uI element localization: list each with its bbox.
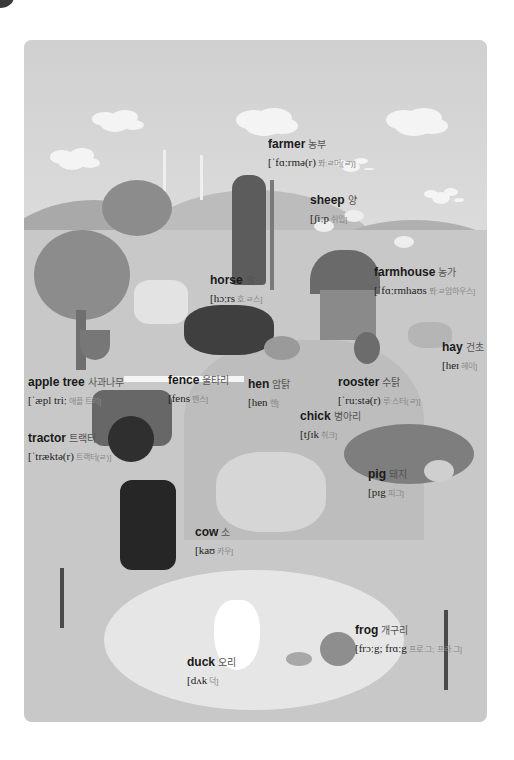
label-ipa-korean: 프로ː그; 프라ː그] — [409, 645, 462, 654]
cloud — [244, 112, 284, 136]
label-word: pig — [368, 467, 386, 481]
label-korean: 울타리 — [202, 375, 229, 386]
cloud — [100, 114, 130, 132]
label-ipa: [hɔːrs — [210, 292, 235, 304]
cow-icon — [216, 452, 326, 532]
label-ipa: [hen — [248, 396, 268, 408]
label-ipa: [ˈfɑːrmhaʊs — [374, 284, 427, 296]
label-farmer: farmer농부 [ˈfɑːrmə(r)퐈ːㄹ머(ㄹ)] — [268, 134, 356, 171]
farmer-figure — [232, 175, 266, 285]
label-word: tractor — [28, 431, 66, 445]
label-word: fence — [168, 373, 199, 387]
label-chick: chick병아리 [tʃɪk취크] — [300, 406, 361, 443]
label-ipa-korean: 퐈ːㄹ머(ㄹ)] — [318, 159, 356, 168]
label-word: apple tree — [28, 375, 85, 389]
label-ipa-korean: 덕] — [209, 677, 218, 686]
label-korean: 건초 — [466, 342, 484, 353]
pig-pen-mud — [344, 424, 474, 484]
label-korean: 트랙터 — [69, 433, 96, 444]
label-ipa: [kaʊ — [195, 544, 215, 556]
label-duck: duck오리 [dʌk덕] — [187, 652, 236, 689]
label-ipa-korean: 쉬입] — [331, 215, 347, 224]
label-korean: 개구리 — [381, 625, 408, 636]
label-korean: 수탉 — [382, 377, 400, 388]
label-apple-tree: apple tree사과나무 [ˈæpl triː애플 트리] — [28, 372, 124, 409]
cattail-reed — [60, 568, 64, 628]
label-ipa-korean: 트랙터(ㄹ)] — [76, 453, 112, 462]
label-korean: 말 — [246, 275, 255, 286]
label-ipa: [ˈruːstə(r) — [338, 394, 381, 406]
label-word: cow — [195, 525, 218, 539]
shovel-icon — [270, 180, 274, 290]
corner-decoration — [0, 0, 14, 8]
label-word: hen — [248, 377, 269, 391]
label-ipa: [pɪg — [368, 486, 386, 498]
label-word: hay — [442, 340, 463, 354]
label-ipa-korean: 헨] — [270, 399, 279, 408]
label-korean: 병아리 — [334, 411, 361, 422]
label-word: duck — [187, 655, 215, 669]
label-korean: 암탉 — [272, 379, 290, 390]
cloud — [58, 152, 86, 170]
label-ipa-korean: 취크] — [321, 431, 337, 440]
label-korean: 돼지 — [389, 469, 407, 480]
label-word: rooster — [338, 375, 379, 389]
label-farmhouse: farmhouse농가 [ˈfɑːrmhaʊs퐈ːㄹ암하우스] — [374, 262, 475, 299]
frog-icon — [320, 632, 356, 666]
label-word: frog — [355, 623, 378, 637]
label-ipa-korean: 카우] — [217, 547, 233, 556]
label-ipa-korean: 애플 트리] — [69, 397, 101, 406]
label-fence: fence울타리 [fens펜스] — [168, 370, 229, 407]
label-ipa-korean: 헤이] — [461, 362, 477, 371]
label-ipa: [dʌk — [187, 674, 207, 686]
wind-turbine — [200, 155, 203, 200]
cow-icon — [120, 480, 176, 570]
label-ipa-korean: 호ːㄹ스] — [237, 295, 262, 304]
label-word: chick — [300, 409, 331, 423]
pig-icon — [424, 460, 454, 482]
label-ipa: [ˈtræktə(r) — [28, 450, 74, 462]
label-ipa: [ʃiːp — [310, 212, 329, 224]
label-word: sheep — [310, 193, 345, 207]
label-sheep: sheep양 [ʃiːp쉬입] — [310, 190, 357, 227]
label-hay: hay건초 [heɪ헤이] — [442, 337, 484, 374]
hen-icon — [264, 336, 300, 360]
label-pig: pig돼지 [pɪg피그] — [368, 464, 407, 501]
label-ipa-korean: 루ː스터(ㄹ)] — [383, 397, 421, 406]
label-hen: hen암탉 [hen헨] — [248, 374, 290, 411]
rooster-icon — [354, 332, 380, 364]
apple-tree-icon — [34, 230, 130, 320]
label-word: farmer — [268, 137, 305, 151]
tractor-wheel — [108, 416, 154, 462]
label-korean: 농가 — [438, 267, 456, 278]
label-ipa: [ˈfɑːrmə(r) — [268, 156, 316, 168]
label-korean: 오리 — [218, 657, 236, 668]
label-ipa-korean: 펜스] — [192, 395, 208, 404]
label-rooster: rooster수탉 [ˈruːstə(r)루ː스터(ㄹ)] — [338, 372, 421, 409]
basket-icon — [80, 330, 110, 360]
cloud — [432, 192, 450, 204]
cloud — [394, 112, 434, 136]
label-ipa: [fens — [168, 392, 190, 404]
label-tractor: tractor트랙터 [ˈtræktə(r)트랙터(ㄹ)] — [28, 428, 111, 465]
label-korean: 소 — [221, 527, 230, 538]
label-word: farmhouse — [374, 265, 435, 279]
label-ipa: [frɔːg; frɑːg — [355, 642, 407, 654]
label-ipa-korean: 퐈ːㄹ암하우스] — [429, 287, 475, 296]
label-korean: 사과나무 — [88, 377, 124, 388]
label-word: horse — [210, 273, 243, 287]
label-cow: cow소 [kaʊ카우] — [195, 522, 233, 559]
label-ipa: [tʃɪk — [300, 428, 319, 440]
label-horse: horse말 [hɔːrs호ːㄹ스] — [210, 270, 263, 307]
horse-icon — [134, 280, 188, 324]
label-ipa-korean: 피그] — [388, 489, 404, 498]
apple-tree-icon — [102, 180, 172, 236]
label-ipa: [ˈæpl triː — [28, 394, 67, 406]
label-korean: 양 — [348, 195, 357, 206]
duckling-icon — [286, 652, 312, 666]
horse-icon — [184, 305, 274, 355]
label-frog: frog개구리 [frɔːg; frɑːg프로ː그; 프라ː그] — [355, 620, 462, 657]
sheep-icon — [394, 236, 414, 248]
label-ipa: [heɪ — [442, 359, 459, 371]
farmhouse-roof — [310, 250, 380, 294]
